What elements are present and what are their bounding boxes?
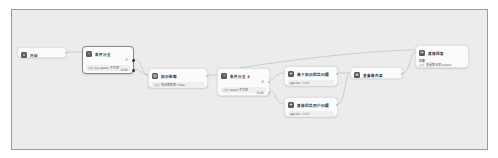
- model-row: gpt-4o CHAT: [288, 80, 334, 86]
- node-title: 条件分支: [95, 52, 111, 57]
- branch-icon: ⑂: [86, 51, 92, 57]
- output-handle[interactable]: [336, 104, 338, 106]
- answer-icon: ✉: [419, 50, 425, 56]
- query-row: {x} 知识库检索 / files: [152, 82, 204, 88]
- if-handle[interactable]: [268, 81, 270, 83]
- node-title: 知识检索: [161, 74, 177, 79]
- llm-icon: ✦: [288, 102, 294, 108]
- output-handle[interactable]: [65, 52, 67, 54]
- node-title: 直接回复: [428, 51, 444, 56]
- home-icon: ⌂: [21, 52, 27, 58]
- node-variable-aggregator[interactable]: ⊕ 变量聚合器: [350, 67, 403, 79]
- answer-content: {x} 变量聚合器.output: [419, 63, 465, 67]
- node-answer[interactable]: ✉ 直接回复 回复 {x} 变量聚合器.output: [415, 45, 469, 68]
- node-if-else-1[interactable]: ⑂ 条件分支 IF {x} sys.query 不为空 ELSE: [82, 46, 134, 74]
- aggregate-icon: ⊕: [354, 72, 360, 78]
- if-handle[interactable]: [132, 59, 135, 62]
- else-port-label: ELSE: [257, 91, 264, 95]
- node-start[interactable]: ⌂ 开始: [17, 47, 67, 58]
- model-row: gpt-4o CHAT: [288, 111, 334, 117]
- else-handle[interactable]: [268, 92, 270, 94]
- node-llm-1[interactable]: ✦ 基于知识回答问题 gpt-4o CHAT: [284, 66, 338, 86]
- node-title: 直接回答用户问题: [297, 103, 329, 108]
- node-knowledge-retrieval[interactable]: ▤ 知识检索 {x} 知识库检索 / files: [148, 68, 208, 88]
- node-title: 条件分支 2: [230, 74, 250, 79]
- node-title: 开始: [30, 53, 38, 58]
- llm-icon: ✦: [288, 71, 294, 77]
- node-title: 基于知识回答问题: [297, 72, 329, 77]
- output-handle[interactable]: [336, 73, 338, 75]
- node-llm-2[interactable]: ✦ 直接回答用户问题 gpt-4o CHAT: [284, 97, 338, 117]
- output-handle[interactable]: [206, 75, 208, 77]
- node-if-else-2[interactable]: ⑂ 条件分支 2 IF {x} result 不为空 ELSE: [217, 68, 270, 96]
- else-handle[interactable]: [132, 69, 135, 72]
- book-icon: ▤: [152, 73, 158, 79]
- node-title: 变量聚合器: [363, 73, 383, 78]
- output-handle[interactable]: [401, 73, 403, 75]
- else-port-label: ELSE: [121, 68, 128, 72]
- branch-icon: ⑂: [221, 73, 227, 79]
- if-port-label: IF: [125, 58, 128, 62]
- if-port-label: IF: [261, 80, 264, 84]
